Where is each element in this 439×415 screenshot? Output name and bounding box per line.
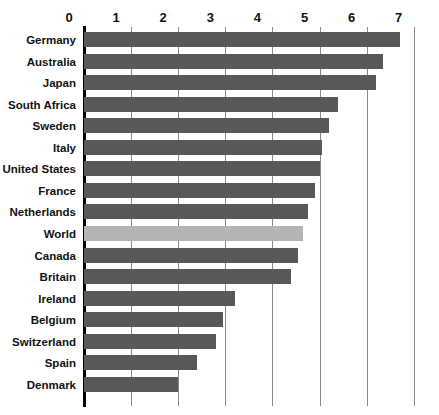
category-label-wrap: Germany bbox=[0, 33, 78, 48]
category-label-united-states: United States bbox=[0, 162, 76, 177]
category-label-wrap: Canada bbox=[0, 249, 78, 264]
category-label-wrap: Netherlands bbox=[0, 205, 78, 220]
category-label-south-africa: South Africa bbox=[0, 98, 76, 113]
x-axis-tick-label-4: 4 bbox=[237, 11, 267, 25]
bar-denmark bbox=[84, 377, 178, 392]
category-label-wrap: Italy bbox=[0, 141, 78, 156]
category-label-germany: Germany bbox=[0, 33, 76, 48]
category-label-australia: Australia bbox=[0, 55, 76, 70]
category-label-netherlands: Netherlands bbox=[0, 205, 76, 220]
category-label-wrap: Denmark bbox=[0, 378, 78, 393]
category-label-ireland: Ireland bbox=[0, 292, 76, 307]
x-axis-tick-label-3: 3 bbox=[190, 11, 220, 25]
category-label-wrap: Sweden bbox=[0, 119, 78, 134]
bar-france bbox=[84, 183, 315, 198]
bar-belgium bbox=[84, 312, 223, 327]
category-label-wrap: World bbox=[0, 227, 78, 242]
category-label-world: World bbox=[0, 227, 76, 242]
bar-germany bbox=[84, 32, 400, 47]
category-label-sweden: Sweden bbox=[0, 119, 76, 134]
category-label-japan: Japan bbox=[0, 76, 76, 91]
category-label-wrap: Switzerland bbox=[0, 335, 78, 350]
gridline-7 bbox=[414, 27, 415, 406]
category-label-spain: Spain bbox=[0, 356, 76, 371]
category-label-wrap: Belgium bbox=[0, 313, 78, 328]
x-axis-tick-label-7: 7 bbox=[379, 11, 409, 25]
bar-united-states bbox=[84, 161, 320, 176]
bar-sweden bbox=[84, 118, 329, 133]
plot-area: 01234567GermanyAustraliaJapanSouth Afric… bbox=[0, 0, 439, 415]
x-axis-tick-label-6: 6 bbox=[332, 11, 362, 25]
category-label-wrap: France bbox=[0, 184, 78, 199]
bar-britain bbox=[84, 269, 291, 284]
category-label-switzerland: Switzerland bbox=[0, 335, 76, 350]
bar-italy bbox=[84, 140, 322, 155]
bar-japan bbox=[84, 75, 376, 90]
category-label-canada: Canada bbox=[0, 249, 76, 264]
category-label-wrap: Britain bbox=[0, 270, 78, 285]
category-label-wrap: Spain bbox=[0, 356, 78, 371]
category-label-italy: Italy bbox=[0, 141, 76, 156]
bar-south-africa bbox=[84, 97, 338, 112]
category-label-france: France bbox=[0, 184, 76, 199]
x-axis-tick-label-5: 5 bbox=[285, 11, 315, 25]
bar-spain bbox=[84, 355, 197, 370]
bar-world bbox=[84, 226, 303, 241]
x-axis-tick-label-2: 2 bbox=[143, 11, 173, 25]
category-label-wrap: Australia bbox=[0, 55, 78, 70]
category-label-belgium: Belgium bbox=[0, 313, 76, 328]
x-axis-tick-label-1: 1 bbox=[96, 11, 126, 25]
bar-chart: 01234567GermanyAustraliaJapanSouth Afric… bbox=[0, 0, 439, 415]
bar-switzerland bbox=[84, 334, 216, 349]
category-label-wrap: South Africa bbox=[0, 98, 78, 113]
category-label-britain: Britain bbox=[0, 270, 76, 285]
category-label-denmark: Denmark bbox=[0, 378, 76, 393]
bar-ireland bbox=[84, 291, 235, 306]
bar-australia bbox=[84, 54, 383, 69]
bar-canada bbox=[84, 248, 298, 263]
category-label-wrap: Japan bbox=[0, 76, 78, 91]
bar-netherlands bbox=[84, 204, 308, 219]
x-axis-tick-label-0: 0 bbox=[49, 11, 79, 25]
category-label-wrap: United States bbox=[0, 162, 78, 177]
category-label-wrap: Ireland bbox=[0, 292, 78, 307]
